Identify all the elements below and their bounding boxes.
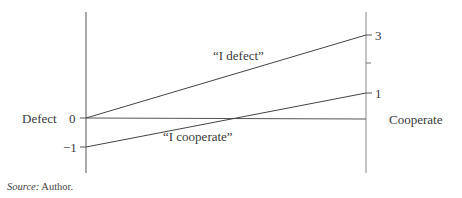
source-text: Author.	[39, 181, 73, 192]
series-label-defect: “I defect”	[213, 49, 264, 62]
source-prefix: Source:	[7, 181, 39, 192]
tick-label-left-minus1: −1	[63, 141, 77, 154]
chart-plot	[0, 0, 462, 198]
source-note: Source: Author.	[7, 181, 73, 192]
tick-label-right-1: 1	[375, 87, 382, 100]
tick-label-right-3: 3	[375, 29, 382, 42]
label-cooperate: Cooperate	[389, 113, 442, 126]
tick-label-left-0: 0	[69, 112, 76, 125]
series-label-cooperate: “I cooperate”	[163, 130, 233, 143]
label-defect: Defect	[22, 112, 57, 125]
baseline-line	[86, 118, 366, 119]
